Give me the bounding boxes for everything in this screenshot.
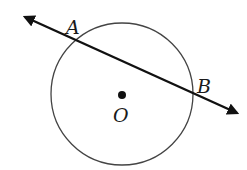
label-point-a: A — [64, 16, 80, 38]
center-point-o — [118, 91, 126, 99]
label-point-b: B — [196, 75, 211, 97]
geometry-figure: A B O — [0, 0, 247, 170]
label-point-o: O — [113, 104, 129, 126]
